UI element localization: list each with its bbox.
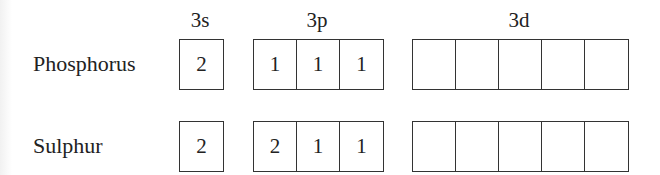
orbital-cell: 1 (254, 40, 297, 89)
orbital-cell: 2 (254, 122, 297, 171)
element-label-phosphorus: Phosphorus (33, 51, 136, 77)
header-3d: 3d (509, 8, 530, 32)
orbital-cell (499, 122, 542, 171)
orbital-cell (456, 40, 499, 89)
orbital-cell: 1 (297, 40, 340, 89)
orbital-cell: 2 (180, 40, 223, 89)
orbital-cell: 1 (340, 122, 383, 171)
orbital-cell: 2 (180, 122, 223, 171)
orbital-cell (499, 40, 542, 89)
orbital-cell: 1 (340, 40, 383, 89)
header-3s: 3s (191, 8, 210, 32)
sulphur-3p-boxes: 2 1 1 (253, 121, 384, 172)
orbital-cell (542, 122, 585, 171)
orbital-cell: 1 (297, 122, 340, 171)
orbital-cell (413, 122, 456, 171)
orbital-cell (413, 40, 456, 89)
orbital-cell (542, 40, 585, 89)
phosphorus-3s-box: 2 (179, 39, 224, 90)
sulphur-3s-box: 2 (179, 121, 224, 172)
orbital-cell (585, 40, 628, 89)
element-label-sulphur: Sulphur (33, 133, 103, 159)
orbital-cell (585, 122, 628, 171)
sulphur-3d-boxes (412, 121, 629, 172)
phosphorus-3p-boxes: 1 1 1 (253, 39, 384, 90)
phosphorus-3d-boxes (412, 39, 629, 90)
orbital-cell (456, 122, 499, 171)
page-edge-shading (0, 0, 12, 175)
header-3p: 3p (307, 8, 328, 32)
